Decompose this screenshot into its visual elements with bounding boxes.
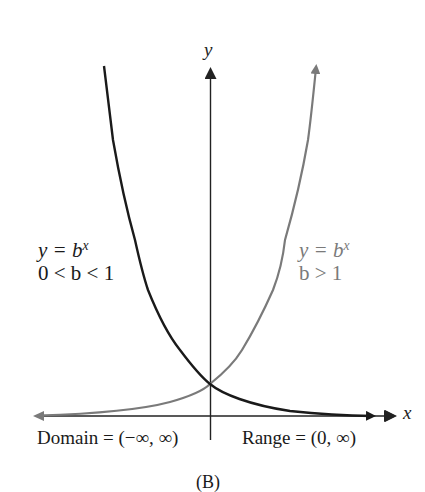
exponential-function-diagram: y x y = bx 0 < b < 1 y = bx b > 1 Domain…: [0, 0, 425, 492]
decay-equation-base: y = b: [38, 238, 83, 262]
growth-equation-base: y = b: [299, 238, 344, 262]
growth-condition-label: b > 1: [299, 263, 342, 284]
decay-equation-exponent: x: [83, 238, 89, 253]
domain-label: Domain = (−∞, ∞): [37, 428, 178, 447]
x-axis-label: x: [403, 403, 411, 422]
growth-equation-label: y = bx: [299, 240, 350, 261]
decay-condition-label: 0 < b < 1: [38, 263, 114, 284]
range-label: Range = (0, ∞): [242, 428, 356, 447]
figure-caption: (B): [196, 473, 220, 491]
y-axis-label: y: [204, 40, 212, 59]
decay-equation-label: y = bx: [38, 240, 89, 261]
growth-equation-exponent: x: [344, 238, 350, 253]
